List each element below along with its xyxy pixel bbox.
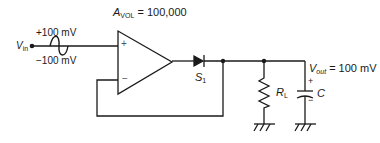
diode-label: S1 [195,72,206,84]
input-terminal-dot [30,44,35,49]
capacitor-label: C [317,88,325,99]
ground-icon [254,124,275,131]
load-resistor-label: RL [276,87,288,99]
resistor-icon [259,61,269,124]
capacitor-minus: − [308,96,313,105]
gain-label: AVOL = 100,000 [113,7,187,19]
output-label: Vout = 100 mV [309,63,377,75]
input-peak-positive: +100 mV [36,28,76,38]
junction-dot [221,59,225,63]
ground-icon [295,124,316,131]
capacitor-plus: + [308,77,313,86]
noninverting-sign: + [121,39,127,49]
input-peak-negative: −100 mV [36,56,76,66]
inverting-sign: − [122,74,128,84]
diode-icon [194,56,203,66]
input-label: Vin [16,41,28,52]
junction-dot [262,59,266,63]
